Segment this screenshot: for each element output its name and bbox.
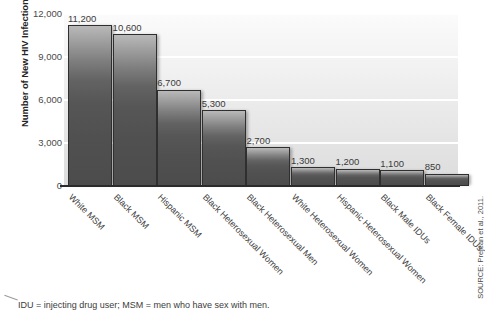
bar-slot: 11,200 (68, 14, 112, 186)
bar[interactable] (113, 34, 157, 186)
bar[interactable] (68, 25, 112, 186)
bar[interactable] (336, 169, 380, 186)
bar[interactable] (246, 147, 290, 186)
bar-value-label: 1,300 (291, 156, 315, 166)
bar[interactable] (380, 170, 424, 186)
y-axis-tick-label: 3,000 (18, 138, 62, 148)
bar-slot: 1,100 (380, 14, 424, 186)
bar[interactable] (157, 90, 201, 186)
source-note: SOURCE: Prejean et al., 2011. (476, 196, 485, 299)
x-axis-category-labels: White MSMBlack MSMHispanic MSMBlack Hete… (0, 188, 477, 300)
bar-value-label: 10,600 (113, 23, 142, 33)
x-axis-category-label: White Heterosexual Women (290, 192, 375, 277)
bar-value-label: 5,300 (202, 99, 226, 109)
bar-slot: 2,700 (246, 14, 290, 186)
y-axis-tick-label: 6,000 (18, 95, 62, 105)
y-axis-tick-label: 9,000 (18, 52, 62, 62)
bar-value-label: 6,700 (157, 78, 181, 88)
bar-slot: 1,200 (336, 14, 380, 186)
x-axis-category-label: Black Heterosexual Men (245, 192, 320, 267)
x-axis-line (60, 185, 460, 187)
bar[interactable] (291, 167, 335, 186)
bar-value-label: 1,100 (380, 159, 404, 169)
x-axis-category-label: White MSM (67, 192, 107, 232)
bar-slot: 850 (425, 14, 469, 186)
bar-slot: 6,700 (157, 14, 201, 186)
bar-slot: 5,300 (202, 14, 246, 186)
x-axis-category-label: Hispanic Heterosexual Women (335, 192, 428, 285)
bar-slot: 10,600 (113, 14, 157, 186)
footnote: IDU = injecting drug user; MSM = men who… (18, 300, 270, 310)
bar-value-label: 2,700 (246, 136, 270, 146)
bar-slot: 1,300 (291, 14, 335, 186)
plot-area: 11,20010,6006,7005,3002,7001,3001,2001,1… (64, 14, 458, 186)
x-axis-category-label: Hispanic MSM (156, 192, 204, 240)
bar-value-label: 11,200 (68, 14, 96, 24)
x-axis-category-label: Black Heterosexual Women (201, 192, 286, 277)
bar[interactable] (202, 110, 246, 186)
bar-value-label: 850 (425, 162, 441, 172)
y-axis-tick-label: 12,000 (18, 9, 62, 19)
bar-value-label: 1,200 (336, 157, 360, 167)
x-axis-category-label: Black MSM (112, 192, 151, 231)
